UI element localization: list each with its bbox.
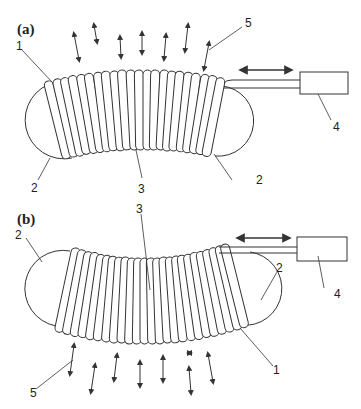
coil-body-a bbox=[43, 70, 225, 160]
callout-5-b: 5 bbox=[30, 386, 37, 400]
callout-5-a: 5 bbox=[245, 16, 252, 30]
callout-2-right-a: 2 bbox=[256, 173, 263, 187]
callout-4-b: 4 bbox=[334, 287, 341, 301]
callout-4-a: 4 bbox=[333, 120, 340, 134]
lead-tube-a bbox=[224, 80, 300, 88]
actuator-box-a bbox=[300, 72, 348, 94]
panel-b: (b) bbox=[15, 202, 347, 400]
callout-3-a: 3 bbox=[138, 182, 145, 196]
panel-label-b: (b) bbox=[17, 211, 35, 228]
callout-1-b: 1 bbox=[273, 363, 280, 377]
vibration-arrows-b bbox=[70, 345, 213, 393]
patent-figure: (a) bbox=[0, 0, 361, 409]
actuator-box-b bbox=[297, 237, 347, 261]
coil-body-b bbox=[54, 243, 249, 344]
panel-a: (a) bbox=[16, 16, 348, 196]
callout-2-left-b: 2 bbox=[15, 228, 22, 242]
callout-2-right-b: 2 bbox=[276, 261, 283, 275]
callout-2-left-a: 2 bbox=[31, 181, 38, 195]
panel-label-a: (a) bbox=[17, 21, 35, 38]
callout-1-a: 1 bbox=[16, 39, 23, 53]
vibration-arrows-a bbox=[74, 25, 209, 69]
callout-3-b: 3 bbox=[136, 202, 143, 216]
